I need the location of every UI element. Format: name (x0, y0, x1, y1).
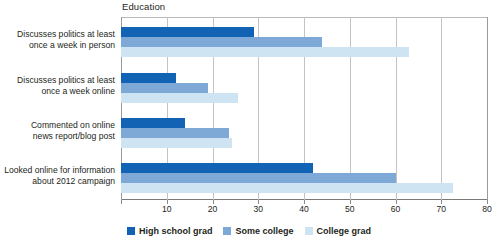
education-bar-chart: Education Discusses politics at leastonc… (0, 0, 498, 248)
bar (121, 83, 208, 93)
x-tick-label: 50 (335, 204, 365, 214)
bar (121, 173, 396, 183)
chart-title: Education (122, 1, 165, 12)
category-label-line: Discusses politics at least (17, 29, 115, 40)
category-label-line: once a week online (17, 86, 115, 97)
x-tick-label: 30 (243, 204, 273, 214)
bar (121, 183, 453, 193)
bar (121, 138, 232, 148)
x-tick-label: 10 (152, 204, 182, 214)
legend-swatch-icon (305, 227, 313, 235)
legend-item: College grad (305, 226, 372, 236)
legend-swatch-icon (223, 227, 231, 235)
category-label: Discusses politics at leastonce a week o… (17, 75, 115, 98)
x-tick-label: 80 (472, 204, 498, 214)
bar (121, 27, 254, 37)
legend-label: Some college (235, 226, 293, 236)
category-label-line: Commented on online (31, 120, 115, 131)
gridline-80 (487, 17, 488, 200)
category-label: Commented on onlinenews report/blog post (31, 120, 115, 143)
bar-group (121, 118, 487, 148)
bar-group (121, 27, 487, 57)
bar-group (121, 163, 487, 193)
legend-label: College grad (317, 226, 372, 236)
category-label-line: news report/blog post (31, 131, 115, 142)
bar (121, 118, 185, 128)
x-tick-label: 70 (426, 204, 456, 214)
bar (121, 47, 409, 57)
bar (121, 163, 313, 173)
chart-legend: High school gradSome collegeCollege grad (0, 226, 498, 236)
category-label: Discusses politics at leastonce a week i… (17, 29, 115, 52)
legend-label: High school grad (139, 226, 213, 236)
bar (121, 128, 229, 138)
bar (121, 73, 176, 83)
category-label-line: Discusses politics at least (17, 75, 115, 86)
bar (121, 37, 322, 47)
category-label-line: about 2012 campaign (4, 176, 115, 187)
legend-item: High school grad (127, 226, 213, 236)
legend-item: Some college (223, 226, 293, 236)
bar (121, 93, 238, 103)
x-tick-label: 60 (381, 204, 411, 214)
x-tick-label: 20 (198, 204, 228, 214)
category-label-line: once a week in person (17, 40, 115, 51)
category-label: Looked online for informationabout 2012 … (4, 165, 115, 188)
category-label-line: Looked online for information (4, 165, 115, 176)
plot-area (121, 17, 487, 200)
x-tick-mark-0 (121, 200, 122, 204)
bar-group (121, 73, 487, 103)
x-tick-label: 40 (289, 204, 319, 214)
legend-swatch-icon (127, 227, 135, 235)
